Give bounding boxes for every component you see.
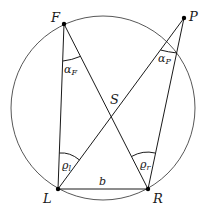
label-alpha-P: αP (158, 52, 171, 66)
label-rho-l: ϱl (62, 159, 71, 173)
label-L: L (42, 191, 52, 206)
angle-arc-rho-r (132, 152, 156, 156)
point-L (56, 187, 60, 191)
diagram-canvas: F P L R S b αF αP ϱl ϱr (0, 0, 208, 211)
point-P (182, 16, 186, 20)
label-P: P (188, 9, 198, 24)
label-S: S (110, 92, 119, 107)
circumcircle (11, 16, 195, 200)
label-alpha-F: αF (64, 63, 77, 77)
segment-PR (148, 18, 184, 189)
geometry-diagram: F P L R S b αF αP ϱl ϱr (0, 0, 208, 211)
label-R: R (152, 191, 163, 206)
segment-PL (58, 18, 184, 189)
angle-arc-alpha-F (63, 57, 80, 62)
label-F: F (50, 10, 61, 25)
label-b: b (99, 175, 106, 188)
label-rho-r: ϱr (140, 158, 151, 172)
point-F (62, 22, 66, 26)
point-R (146, 187, 150, 191)
